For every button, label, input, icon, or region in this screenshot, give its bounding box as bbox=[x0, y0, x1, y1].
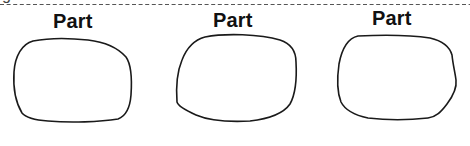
part-label-2: Part bbox=[213, 10, 253, 30]
diagram-canvas: g Part Part Part bbox=[0, 0, 470, 146]
part-outline-2 bbox=[177, 35, 297, 122]
part-label-3: Part bbox=[372, 8, 412, 28]
part-outline-3 bbox=[338, 35, 456, 119]
part-label-1: Part bbox=[53, 11, 93, 31]
part-outline-1 bbox=[14, 39, 132, 122]
